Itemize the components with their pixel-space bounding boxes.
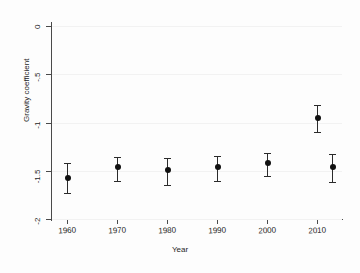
whisker-cap-lower xyxy=(214,181,221,182)
y-tick-mark xyxy=(46,26,51,27)
x-tick-label: 2010 xyxy=(308,226,326,236)
whisker-cap-lower xyxy=(64,193,71,194)
x-tick-label: 2000 xyxy=(258,226,276,236)
x-tick-mark xyxy=(167,220,168,224)
x-tick-mark xyxy=(217,220,218,224)
y-tick-label: -1.5 xyxy=(33,169,42,183)
gridline xyxy=(52,74,342,75)
gridline xyxy=(52,219,342,220)
data-point-marker xyxy=(65,175,71,181)
whisker-cap-lower xyxy=(164,185,171,186)
gridline xyxy=(52,171,342,172)
x-tick-mark xyxy=(67,220,68,224)
data-point-marker xyxy=(115,164,121,170)
x-tick-label: 1980 xyxy=(158,226,176,236)
data-point-marker xyxy=(215,164,221,170)
y-tick-label: -2 xyxy=(33,218,42,225)
whisker-cap-lower xyxy=(314,132,321,133)
whisker-cap-lower xyxy=(329,182,336,183)
x-tick-label: 1970 xyxy=(108,226,126,236)
y-axis-line xyxy=(51,22,52,221)
whisker-cap-upper xyxy=(114,157,121,158)
data-point-marker xyxy=(265,160,271,166)
data-point-marker xyxy=(165,167,171,173)
y-tick-label: -.5 xyxy=(33,73,42,82)
data-point-marker xyxy=(330,164,336,170)
whisker-cap-upper xyxy=(64,163,71,164)
x-axis-title: Year xyxy=(0,245,360,254)
whisker-cap-upper xyxy=(329,154,336,155)
y-tick-mark xyxy=(46,219,51,220)
x-tick-mark xyxy=(317,220,318,224)
gridline xyxy=(52,26,342,27)
y-tick-mark xyxy=(46,74,51,75)
whisker-cap-upper xyxy=(214,156,221,157)
y-tick-mark xyxy=(46,171,51,172)
y-tick-mark xyxy=(46,123,51,124)
x-tick-label: 1960 xyxy=(58,226,76,236)
data-point-marker xyxy=(315,115,321,121)
whisker-cap-lower xyxy=(114,181,121,182)
whisker-cap-upper xyxy=(314,105,321,106)
gridline xyxy=(52,123,342,124)
whisker-cap-upper xyxy=(164,158,171,159)
y-tick-label: -1 xyxy=(33,121,42,128)
x-tick-label: 1990 xyxy=(208,226,226,236)
y-axis-title: Gravity coefficient xyxy=(22,59,31,122)
x-tick-mark xyxy=(267,220,268,224)
whisker-cap-upper xyxy=(264,153,271,154)
y-tick-label: 0 xyxy=(33,25,42,29)
x-tick-mark xyxy=(117,220,118,224)
gravity-coefficient-chart: 0-.5-1-1.5-2 196019701980199020002010 Gr… xyxy=(0,0,360,273)
whisker-cap-lower xyxy=(264,176,271,177)
